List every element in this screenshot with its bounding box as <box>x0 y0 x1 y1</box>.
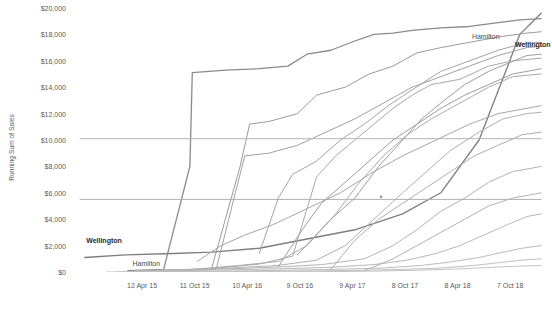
wellington-top-label: Wellington <box>515 41 551 48</box>
x-axis-tick-label: 7 Oct 18 <box>497 282 523 289</box>
y-axis: $0$2,000$4,000$6,000$8,000$10,000$12,000… <box>0 0 66 310</box>
data-point-marker <box>380 195 383 198</box>
series-line <box>173 46 541 270</box>
x-axis-tick-label: 11 Oct 15 <box>180 282 210 289</box>
y-axis-tick-label: $6,000 <box>22 189 66 196</box>
y-axis-tick-label: $8,000 <box>22 163 66 170</box>
x-axis-tick-label: 8 Apr 18 <box>445 282 471 289</box>
y-axis-tick-label: $2,000 <box>22 242 66 249</box>
x-axis-tick-label: 12 Apr 15 <box>127 282 157 289</box>
y-axis-tick-label: $16,000 <box>22 57 66 64</box>
y-axis-tick-label: $18,000 <box>22 31 66 38</box>
y-axis-tick-label: $4,000 <box>22 216 66 223</box>
y-axis-tick-label: $20,000 <box>22 5 66 12</box>
y-axis-tick-label: $0 <box>22 269 66 276</box>
series-line <box>85 13 541 257</box>
running-sum-of-sales-chart: Running Sum of Sales $0$2,000$4,000$6,00… <box>0 0 552 310</box>
plot-area <box>68 8 546 272</box>
series-line <box>130 166 541 271</box>
series-line <box>211 32 541 270</box>
series-line <box>331 132 541 269</box>
x-axis-tick-label: 9 Apr 17 <box>339 282 365 289</box>
series-line <box>144 74 541 271</box>
hamilton-bottom-label: Hamilton <box>133 260 161 267</box>
wellington-bottom-label: Wellington <box>86 237 122 244</box>
y-axis-tick-label: $10,000 <box>22 137 66 144</box>
x-axis-tick-label: 8 Oct 17 <box>392 282 418 289</box>
hamilton-top-label: Hamilton <box>472 33 500 40</box>
y-axis-tick-label: $12,000 <box>22 110 66 117</box>
x-axis-tick-label: 9 Oct 16 <box>287 282 313 289</box>
series-lines <box>68 8 546 272</box>
series-line <box>259 42 541 253</box>
y-axis-tick-label: $14,000 <box>22 84 66 91</box>
x-axis-tick-label: 10 Apr 16 <box>232 282 262 289</box>
